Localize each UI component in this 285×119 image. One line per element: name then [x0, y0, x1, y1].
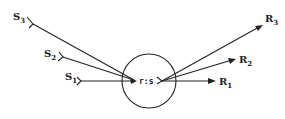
source-s3: S3	[13, 11, 134, 80]
source-s1-subscript: 1	[72, 76, 77, 85]
arrowhead-icon	[130, 78, 137, 84]
source-s3-label: S	[13, 11, 20, 22]
receiver-r3: R3	[162, 13, 278, 81]
tail-feather-icon	[58, 52, 63, 61]
source-receiver-diagram: r:s S3 S2 S1 R1 R2 R3	[0, 0, 285, 119]
source-s2-subscript: 2	[51, 53, 56, 62]
source-s3-subscript: 3	[20, 16, 25, 25]
source-s2: S2	[44, 48, 134, 80]
tail-feather-icon	[27, 17, 33, 28]
svg-text:S3: S3	[13, 11, 25, 25]
receiver-r2-subscript: 2	[247, 59, 252, 68]
source-s1-label: S	[65, 71, 72, 82]
svg-text:R1: R1	[219, 76, 232, 90]
arrowhead-icon	[255, 25, 263, 31]
svg-text:S1: S1	[65, 71, 77, 85]
tail-feather-icon	[157, 77, 162, 84]
svg-text:S2: S2	[44, 48, 56, 62]
arrowhead-icon	[228, 58, 236, 64]
svg-text:R3: R3	[265, 13, 278, 27]
receiver-r1-subscript: 1	[227, 81, 232, 90]
receiver-r2: R2	[162, 54, 252, 81]
source-s2-label: S	[44, 48, 51, 59]
tail-feather-icon	[77, 77, 81, 85]
receiver-r3-subscript: 3	[273, 18, 278, 27]
center-label: r:s	[139, 77, 154, 86]
svg-text:R2: R2	[239, 54, 252, 68]
arrowhead-icon	[208, 78, 216, 84]
